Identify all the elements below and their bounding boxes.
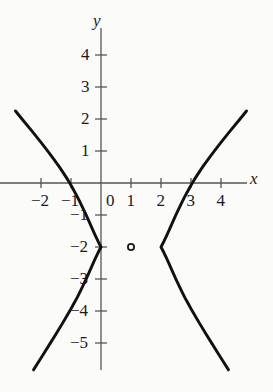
y-tick-label-3: 3 bbox=[81, 78, 90, 95]
annotation-points bbox=[128, 244, 134, 250]
y-tick-label--4: −4 bbox=[70, 302, 88, 319]
x-tick-label-4: 4 bbox=[217, 192, 226, 209]
x-axis-label: x bbox=[250, 170, 258, 187]
y-tick-label--3: −3 bbox=[70, 270, 88, 287]
x-tick-label-1: 1 bbox=[127, 192, 136, 209]
x-tick-label-2: 2 bbox=[157, 192, 166, 209]
curve-right-branch bbox=[161, 111, 247, 370]
y-tick-label--2: −2 bbox=[70, 238, 88, 255]
open-circle-marker bbox=[128, 244, 134, 250]
y-tick-label-1: 1 bbox=[81, 142, 90, 159]
origin-label: 0 bbox=[106, 192, 115, 209]
hyperbola-curves bbox=[16, 111, 247, 370]
x-tick-label-3: 3 bbox=[187, 192, 196, 209]
y-tick-label-4: 4 bbox=[81, 46, 90, 63]
x-tick-label--2: −2 bbox=[31, 192, 49, 209]
y-tick-label-2: 2 bbox=[81, 110, 90, 127]
y-axis-label: y bbox=[93, 12, 101, 29]
y-tick-label--5: −5 bbox=[70, 334, 88, 351]
graph-figure: −2−1123404321−1−2−3−4−5 y x bbox=[0, 0, 273, 392]
y-tick-label--1: −1 bbox=[70, 206, 88, 223]
